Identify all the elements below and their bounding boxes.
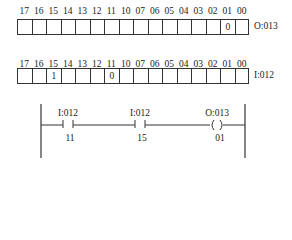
contact2-symbol (135, 120, 145, 128)
coil-symbol (212, 120, 222, 130)
coil-bit: 01 (200, 133, 240, 143)
contact1-address: I:012 (48, 108, 88, 118)
contact2-bit: 15 (122, 133, 162, 143)
coil-address: O:013 (197, 108, 237, 118)
contact1-bit: 11 (50, 133, 90, 143)
contact1-symbol (63, 120, 73, 128)
contact2-address: I:012 (120, 108, 160, 118)
